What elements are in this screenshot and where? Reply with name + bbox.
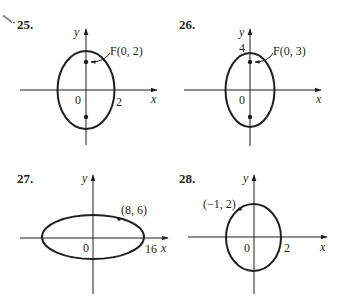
exercise-number: 26. — [179, 17, 195, 32]
point-marker — [238, 207, 242, 211]
y-axis-label: y — [73, 25, 80, 39]
origin-label: 0 — [83, 241, 89, 255]
exercise-figures: 25. y x 0 2 F(0, 2) 26. y x 0 4 F(0, 3) … — [0, 0, 345, 301]
y-axis-label: y — [238, 25, 245, 39]
point-label: (−1, 2) — [203, 197, 236, 211]
x-axis-label: x — [150, 92, 157, 106]
pencil-icon — [2, 15, 15, 23]
point-label: (8, 6) — [121, 203, 147, 217]
exercise-28: 28. y x 0 2 (−1, 2) — [179, 171, 327, 294]
x-axis-label: x — [315, 92, 322, 106]
focus-point — [84, 115, 88, 119]
origin-label: 0 — [239, 93, 245, 107]
origin-label: 0 — [75, 93, 81, 107]
focus-label: F(0, 3) — [273, 44, 306, 58]
focus-point — [84, 60, 88, 64]
x-axis-label: x — [160, 241, 167, 255]
x-tick-label: 16 — [145, 242, 157, 256]
focus-point — [248, 60, 252, 64]
exercise-number: 27. — [17, 171, 33, 186]
y-tick-label: 4 — [239, 41, 245, 55]
x-axis-label: x — [319, 240, 326, 254]
exercise-25: 25. y x 0 2 F(0, 2) — [2, 15, 157, 145]
point-marker — [117, 217, 121, 221]
origin-label: 0 — [244, 241, 250, 255]
focus-label: F(0, 2) — [110, 44, 143, 58]
exercise-27: 27. y x 0 16 (8, 6) — [17, 171, 168, 294]
y-axis-label: y — [81, 171, 88, 185]
exercise-26: 26. y x 0 4 F(0, 3) — [179, 17, 322, 146]
focus-point — [248, 115, 252, 119]
y-axis-label: y — [242, 171, 249, 185]
x-tick-label: 2 — [284, 241, 290, 255]
exercise-number: 28. — [179, 171, 195, 186]
exercise-number: 25. — [17, 17, 33, 32]
x-tick-label: 2 — [116, 95, 122, 109]
